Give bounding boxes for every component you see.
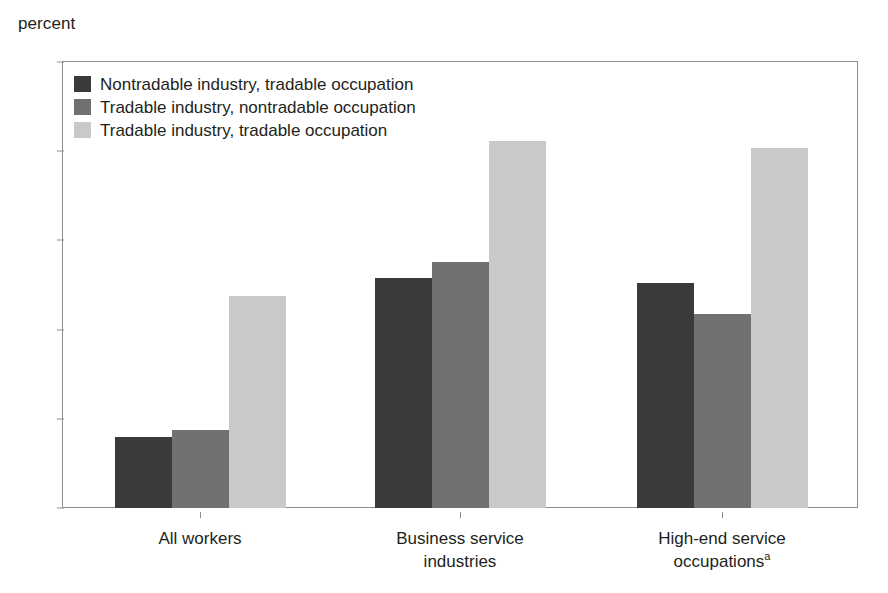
legend-item-tradable-industry-tradable-occupation: Tradable industry, tradable occupation (74, 120, 416, 140)
bar (432, 262, 489, 508)
bar (694, 314, 751, 508)
bar (229, 296, 286, 508)
bar (375, 278, 432, 508)
y-axis-tick-mark (57, 151, 64, 152)
legend-item-tradable-industry-nontradable-occupation: Tradable industry, nontradable occupatio… (74, 97, 416, 117)
x-axis-category-label-line: All workers (158, 527, 241, 550)
x-axis-category-label-line: Business service (396, 527, 524, 550)
legend-label: Nontradable industry, tradable occupatio… (100, 75, 413, 94)
x-axis-category-label: All workers (158, 527, 241, 550)
y-axis-tick-mark (57, 508, 64, 509)
legend-swatch-icon (74, 99, 91, 115)
x-axis-category-label: Business serviceindustries (396, 527, 524, 573)
x-axis-tick-mark (460, 512, 461, 518)
x-axis-category-labels: All workersBusiness serviceindustriesHig… (63, 512, 857, 582)
bar (115, 437, 172, 508)
y-axis-tick-mark (57, 240, 64, 241)
x-axis-category-label-line: occupationsa (658, 550, 786, 573)
x-axis-category-label-line: High-end service (658, 527, 786, 550)
footnote-marker: a (764, 550, 770, 562)
y-axis-tick-mark (57, 418, 64, 419)
x-axis-category-label: High-end serviceoccupationsa (658, 527, 786, 573)
y-axis: 2520151050 (0, 0, 62, 593)
y-axis-tick-mark (57, 329, 64, 330)
bar (751, 148, 808, 508)
legend-swatch-icon (74, 122, 91, 138)
bar-chart-figure: percent 2520151050 Nontradable industry,… (0, 0, 888, 593)
x-axis-category-label-line: industries (396, 550, 524, 573)
y-axis-tick-mark (57, 62, 64, 63)
chart-legend: Nontradable industry, tradable occupatio… (74, 74, 416, 140)
legend-label: Tradable industry, tradable occupation (100, 121, 387, 140)
x-axis-tick-mark (722, 512, 723, 518)
bar (637, 283, 694, 508)
legend-item-nontradable-industry-tradable-occupation: Nontradable industry, tradable occupatio… (74, 74, 416, 94)
legend-label: Tradable industry, nontradable occupatio… (100, 98, 416, 117)
bar (172, 430, 229, 508)
x-axis-tick-mark (200, 512, 201, 518)
bar (489, 141, 546, 509)
legend-swatch-icon (74, 76, 91, 92)
